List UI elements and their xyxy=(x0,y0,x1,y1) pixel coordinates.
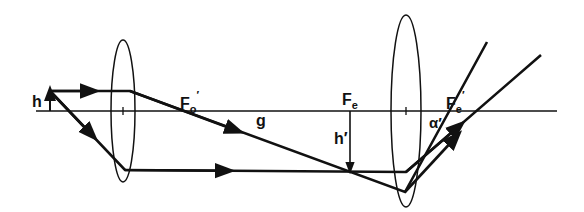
label-fe2-prime-mark: ′ xyxy=(462,89,465,101)
label-h: h xyxy=(32,94,42,110)
label-h-prime: h′ xyxy=(334,131,348,147)
label-fo-sub: o xyxy=(190,103,197,115)
label-fe-main: F xyxy=(342,91,352,108)
telescope-diagram: h Fo′ g Fe h′ Fe′ α′ xyxy=(0,0,584,212)
label-fe-sub: e xyxy=(352,99,358,111)
ray-diagram-svg xyxy=(0,0,584,212)
label-fe: Fe xyxy=(342,92,358,111)
label-fe2-sub: e xyxy=(456,103,462,115)
label-fo-prime-mark: ′ xyxy=(197,89,200,101)
label-g: g xyxy=(256,113,266,129)
label-fo-main: F xyxy=(180,95,190,112)
label-alpha-prime: α′ xyxy=(429,115,442,130)
label-fo-prime: Fo′ xyxy=(180,90,199,115)
label-fe2-main: F xyxy=(446,95,456,112)
label-fe-prime: Fe′ xyxy=(446,90,465,115)
